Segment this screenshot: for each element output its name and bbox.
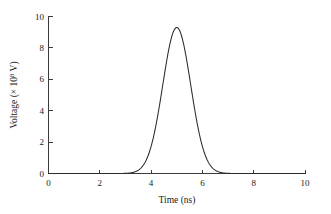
x-tick-label-6: 6 bbox=[200, 178, 205, 188]
y-tick-label-8: 8 bbox=[40, 43, 45, 53]
voltage-time-line-chart: 0 2 4 6 8 10 0 2 4 6 8 10 Time (ns) Volt… bbox=[0, 0, 331, 214]
x-tick-label-10: 10 bbox=[301, 178, 311, 188]
y-axis-title: Voltage (× 108 V) bbox=[8, 61, 21, 128]
y-tick-label-6: 6 bbox=[40, 74, 45, 84]
y-axis-title-prefix: Voltage (× 10 bbox=[9, 77, 20, 129]
chart-figure: 0 2 4 6 8 10 0 2 4 6 8 10 Time (ns) Volt… bbox=[0, 0, 331, 214]
x-tick-label-8: 8 bbox=[251, 178, 256, 188]
y-tick-label-0: 0 bbox=[40, 169, 45, 179]
y-axis-title-suffix: V) bbox=[9, 61, 20, 73]
x-tick-label-2: 2 bbox=[98, 178, 103, 188]
x-axis-title: Time (ns) bbox=[159, 195, 196, 206]
y-tick-label-10: 10 bbox=[35, 12, 45, 22]
y-tick-label-2: 2 bbox=[40, 137, 45, 147]
y-tick-label-4: 4 bbox=[40, 106, 45, 116]
x-tick-label-4: 4 bbox=[149, 178, 154, 188]
x-tick-label-0: 0 bbox=[46, 178, 51, 188]
